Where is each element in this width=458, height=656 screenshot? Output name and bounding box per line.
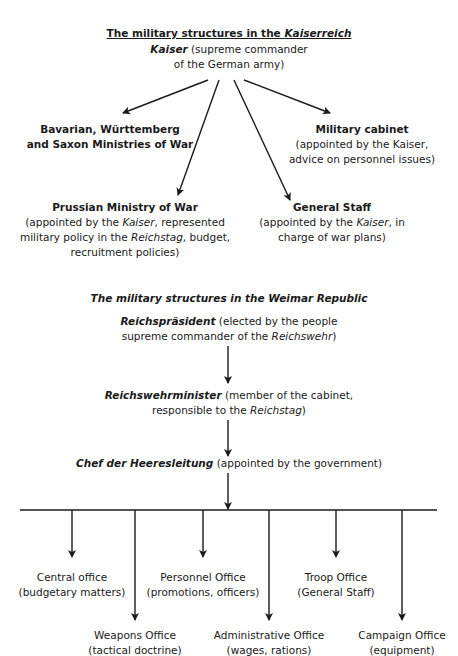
node-reichswehrminister: Reichswehrminister (member of the cabine… [0,388,458,418]
node-troop-office: Troop Office (General Staff) [281,570,391,600]
node-military-cabinet: Military cabinet (appointed by the Kaise… [282,122,442,167]
node-administrative-office: Administrative Office (wages, rations) [199,628,339,656]
node-personnel-office: Personnel Office (promotions, officers) [138,570,268,600]
node-reichspraesident: Reichspräsident (elected by the people s… [0,314,458,344]
node-bavarian-ministries: Bavarian, Württemberg and Saxon Ministri… [10,122,210,152]
arrow-kaiser-to-cabinet [244,80,330,113]
node-prussian-ministry: Prussian Ministry of War (appointed by t… [10,200,240,260]
node-central-office: Central office (budgetary matters) [12,570,132,600]
node-weapons-office: Weapons Office (tactical doctrine) [80,628,190,656]
kaiserreich-title: The military structures in the Kaiserrei… [0,26,458,41]
node-general-staff: General Staff (appointed by the Kaiser, … [252,200,412,245]
node-campaign-office: Campaign Office (equipment) [347,628,457,656]
node-chef-der-heeresleitung: Chef der Heeresleitung (appointed by the… [0,456,458,471]
node-kaiser: Kaiser (supreme commander of the German … [0,42,458,72]
arrow-kaiser-to-bavarian [123,80,208,113]
weimar-title: The military structures in the Weimar Re… [0,291,458,306]
